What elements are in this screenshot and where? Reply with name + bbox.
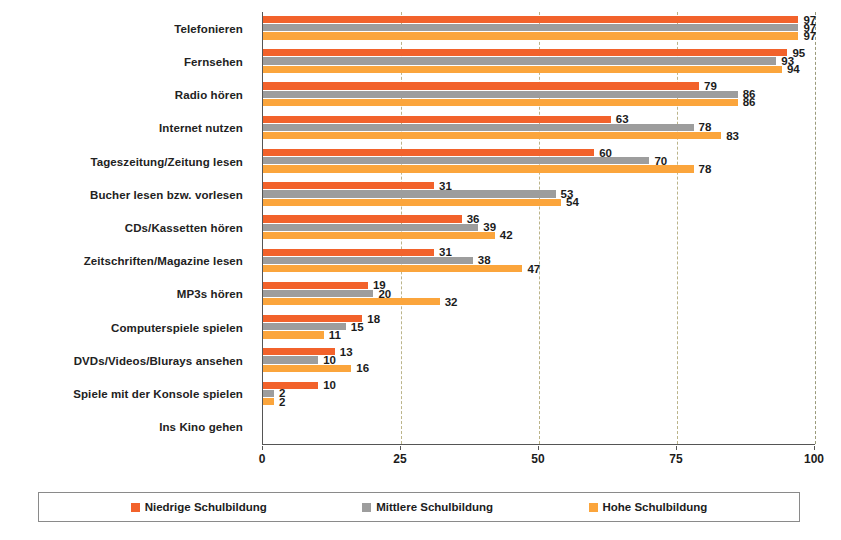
plot-area: 9797979593947986866378836070783153543639… bbox=[262, 12, 815, 445]
category-label: Zeitschriften/Magazine lesen bbox=[0, 255, 243, 267]
legend-items: Niedrige SchulbildungMittlere Schulbildu… bbox=[39, 493, 799, 521]
legend-swatch-icon bbox=[589, 503, 598, 512]
x-tick-mark bbox=[262, 446, 263, 450]
bar-2 bbox=[263, 32, 798, 39]
bar-group: 979797 bbox=[263, 12, 815, 45]
chart-legend: Niedrige SchulbildungMittlere Schulbildu… bbox=[38, 492, 800, 522]
bar-0 bbox=[263, 215, 462, 222]
bar-2 bbox=[263, 132, 721, 139]
bar-group: 798686 bbox=[263, 78, 815, 111]
bar-group: 313847 bbox=[263, 245, 815, 278]
bar-group: 959394 bbox=[263, 45, 815, 78]
x-tick-label: 0 bbox=[259, 452, 266, 466]
bar-value-label: 47 bbox=[527, 263, 540, 275]
bar-1 bbox=[263, 290, 373, 297]
bar-2 bbox=[263, 331, 324, 338]
legend-item[interactable]: Niedrige Schulbildung bbox=[131, 501, 267, 513]
bar-group: 363942 bbox=[263, 211, 815, 244]
category-label: Bucher lesen bzw. vorlesen bbox=[0, 189, 243, 201]
x-axis-ticks: 0255075100 bbox=[262, 446, 814, 468]
bar-value-label: 2 bbox=[279, 396, 285, 408]
bar-1 bbox=[263, 157, 649, 164]
bar-0 bbox=[263, 82, 699, 89]
bar-value-label: 32 bbox=[445, 296, 458, 308]
gridline-100 bbox=[815, 12, 816, 444]
x-tick-mark bbox=[538, 446, 539, 450]
bar-2 bbox=[263, 99, 738, 106]
category-label: Telefonieren bbox=[0, 23, 243, 35]
bar-1 bbox=[263, 190, 556, 197]
legend-label: Hohe Schulbildung bbox=[603, 501, 708, 513]
category-label: DVDs/Videos/Blurays ansehen bbox=[0, 355, 243, 367]
category-label: Tageszeitung/Zeitung lesen bbox=[0, 156, 243, 168]
bar-2 bbox=[263, 199, 561, 206]
bar-0 bbox=[263, 116, 611, 123]
bar-value-label: 15 bbox=[351, 321, 364, 333]
category-label: MP3s hören bbox=[0, 288, 243, 300]
bar-0 bbox=[263, 382, 318, 389]
bar-group: 181511 bbox=[263, 311, 815, 344]
bar-value-label: 16 bbox=[356, 362, 369, 374]
x-tick-label: 100 bbox=[804, 452, 824, 466]
x-tick-mark bbox=[814, 446, 815, 450]
bar-2 bbox=[263, 165, 694, 172]
bar-1 bbox=[263, 390, 274, 397]
bar-1 bbox=[263, 257, 473, 264]
bar-value-label: 78 bbox=[699, 163, 712, 175]
bar-group: 315354 bbox=[263, 178, 815, 211]
category-label: Computerspiele spielen bbox=[0, 322, 243, 334]
bar-2 bbox=[263, 66, 782, 73]
x-tick-mark bbox=[400, 446, 401, 450]
x-tick-label: 75 bbox=[669, 452, 682, 466]
category-label: Spiele mit der Konsole spielen bbox=[0, 388, 243, 400]
category-label: Fernsehen bbox=[0, 56, 243, 68]
bar-0 bbox=[263, 282, 368, 289]
bar-0 bbox=[263, 149, 594, 156]
bar-group bbox=[263, 411, 815, 444]
bar-group: 607078 bbox=[263, 145, 815, 178]
category-label: Radio hören bbox=[0, 89, 243, 101]
bar-2 bbox=[263, 298, 440, 305]
bar-1 bbox=[263, 24, 798, 31]
bar-value-label: 54 bbox=[566, 196, 579, 208]
legend-label: Mittlere Schulbildung bbox=[376, 501, 493, 513]
bar-group: 637883 bbox=[263, 112, 815, 145]
bar-value-label: 86 bbox=[743, 96, 756, 108]
bar-1 bbox=[263, 224, 478, 231]
bar-0 bbox=[263, 49, 787, 56]
category-label: Ins Kino gehen bbox=[0, 421, 243, 433]
bar-value-label: 42 bbox=[500, 229, 513, 241]
bar-0 bbox=[263, 315, 362, 322]
plot-wrapper: TelefonierenFernsehenRadio hörenInternet… bbox=[0, 0, 841, 470]
legend-swatch-icon bbox=[131, 503, 140, 512]
x-tick-label: 25 bbox=[393, 452, 406, 466]
bar-value-label: 10 bbox=[323, 379, 336, 391]
bar-2 bbox=[263, 398, 274, 405]
bar-value-label: 18 bbox=[367, 313, 380, 325]
category-label: Internet nutzen bbox=[0, 122, 243, 134]
bar-2 bbox=[263, 265, 522, 272]
bar-1 bbox=[263, 91, 738, 98]
bar-group: 1022 bbox=[263, 378, 815, 411]
bar-1 bbox=[263, 356, 318, 363]
legend-item[interactable]: Mittlere Schulbildung bbox=[362, 501, 493, 513]
bar-0 bbox=[263, 249, 434, 256]
bar-1 bbox=[263, 57, 776, 64]
category-axis-labels: TelefonierenFernsehenRadio hörenInternet… bbox=[0, 12, 255, 444]
bar-chart: TelefonierenFernsehenRadio hörenInternet… bbox=[0, 0, 841, 540]
bar-group: 192032 bbox=[263, 278, 815, 311]
bar-2 bbox=[263, 365, 351, 372]
x-tick-label: 50 bbox=[531, 452, 544, 466]
legend-label: Niedrige Schulbildung bbox=[145, 501, 267, 513]
bar-0 bbox=[263, 16, 798, 23]
x-tick-mark bbox=[676, 446, 677, 450]
bar-value-label: 83 bbox=[726, 130, 739, 142]
category-label: CDs/Kassetten hören bbox=[0, 222, 243, 234]
bar-0 bbox=[263, 182, 434, 189]
bar-value-label: 95 bbox=[792, 47, 805, 59]
bar-value-label: 11 bbox=[329, 329, 341, 341]
legend-item[interactable]: Hohe Schulbildung bbox=[589, 501, 708, 513]
legend-swatch-icon bbox=[362, 503, 371, 512]
bar-value-label: 94 bbox=[787, 63, 800, 75]
bar-value-label: 13 bbox=[340, 346, 353, 358]
